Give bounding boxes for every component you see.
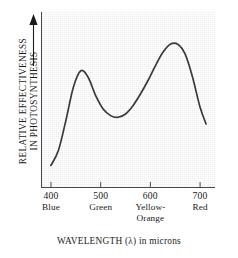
effectiveness-curve (41, 12, 215, 188)
x-tick-color-name-700: Red (172, 202, 228, 213)
x-axis-ticks (51, 182, 200, 187)
x-axis-tick-labels: 400Blue500Green600Yellow-Orange700Red (41, 190, 231, 236)
x-axis-title: WAVELENGTH (λ) in microns (0, 236, 238, 246)
x-tick-color-name-400: Blue (23, 202, 79, 213)
x-tick-value-600: 600 (122, 190, 178, 202)
x-tick-value-400: 400 (23, 190, 79, 202)
photosynthesis-effectiveness-chart: RELATIVE EFFECTIVENESS IN PHOTOSYNTHESIS… (0, 0, 238, 258)
up-arrow-icon (29, 14, 38, 66)
x-tick-label-500: 500Green (73, 190, 129, 213)
x-tick-color-name-500: Green (73, 202, 129, 213)
x-tick-value-500: 500 (73, 190, 129, 202)
x-tick-value-700: 700 (172, 190, 228, 202)
plot-area (41, 12, 215, 188)
y-axis-label-line-1: RELATIVE EFFECTIVENESS (18, 38, 29, 164)
x-tick-color-name-600: Yellow- (122, 202, 178, 213)
x-tick-label-600: 600Yellow-Orange (122, 190, 178, 224)
curve-path (51, 43, 206, 165)
x-tick-label-400: 400Blue (23, 190, 79, 213)
x-tick-color-name-600-cont: Orange (122, 213, 178, 224)
y-axis-label-line-2: IN PHOTOSYNTHESIS (29, 52, 40, 151)
x-tick-label-700: 700Red (172, 190, 228, 213)
